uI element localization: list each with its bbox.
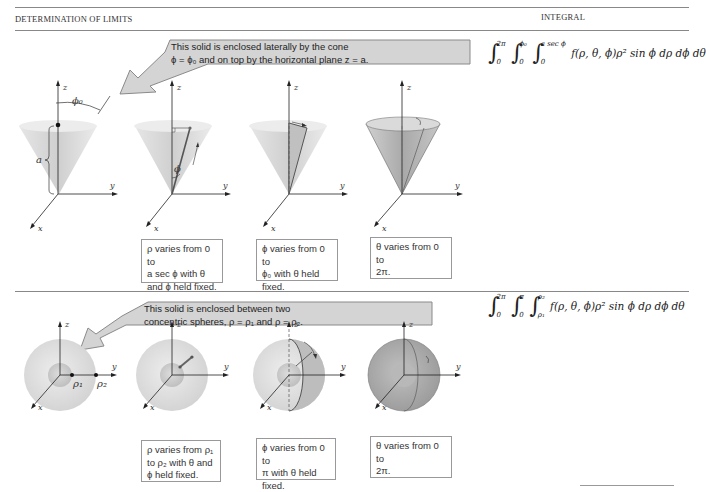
integral-spheres: ∫2π0 ∫π0 ∫ρ₂ρ₁ f(ρ, θ, ϕ)ρ² sin ϕ dρ dϕ … xyxy=(488,293,685,319)
description-line: fixed. xyxy=(262,480,330,492)
description-line: θ varies from 0 to xyxy=(376,440,446,465)
callout-line: concentric spheres, ρ = ρ₁ and ρ = ρ₂. xyxy=(144,315,303,328)
svg-text:y: y xyxy=(340,362,346,371)
description-box-phi-sphere: ϕ varies from 0 to π with θ held fixed. xyxy=(256,438,336,480)
svg-text:x: x xyxy=(382,403,387,412)
svg-text:z: z xyxy=(408,320,414,329)
svg-text:y: y xyxy=(223,362,229,371)
rho1-label: ρ₁ xyxy=(72,378,83,389)
description-line: 2π. xyxy=(376,465,446,478)
sphere-figure-full: z y x ρ₁ ρ₂ xyxy=(24,320,117,412)
description-line: ϕ varies from 0 to xyxy=(262,442,330,467)
description-line: ϕ held fixed. xyxy=(147,469,215,482)
integral-sign: ∫ xyxy=(488,293,499,318)
svg-text:x: x xyxy=(150,403,155,412)
svg-text:z: z xyxy=(293,320,299,329)
rho2-label: ρ₂ xyxy=(96,378,107,389)
svg-text:y: y xyxy=(111,362,117,371)
sphere-figure-phi: z y x xyxy=(253,320,346,412)
callout-text-spheres: This solid is enclosed between two conce… xyxy=(144,302,303,328)
description-line: ρ varies from ρ₁ xyxy=(147,444,215,457)
integral-sign: ∫ xyxy=(529,293,540,318)
sphere-figures: z y x ρ₁ ρ₂ z y x z y xyxy=(0,330,480,440)
svg-text:z: z xyxy=(64,320,70,329)
svg-text:y: y xyxy=(455,362,461,371)
description-box-rho-sphere: ρ varies from ρ₁ to ρ₂ with θ and ϕ held… xyxy=(141,440,221,482)
svg-text:z: z xyxy=(176,320,182,329)
integral-sign: ∫ xyxy=(511,293,522,318)
description-line: π with θ held xyxy=(262,467,330,480)
sphere-figure-rho: z y x xyxy=(136,320,229,412)
sphere-figure-theta: z y x xyxy=(368,320,461,412)
svg-text:x: x xyxy=(267,403,272,412)
svg-text:x: x xyxy=(38,403,43,412)
description-box-theta-sphere: θ varies from 0 to 2π. xyxy=(370,436,452,478)
bottom-rule xyxy=(580,485,674,486)
integrand: f(ρ, θ, ϕ)ρ² sin ϕ dρ dϕ dθ xyxy=(550,300,685,312)
callout-line: This solid is enclosed between two xyxy=(144,302,303,315)
description-line: to ρ₂ with θ and xyxy=(147,457,215,470)
